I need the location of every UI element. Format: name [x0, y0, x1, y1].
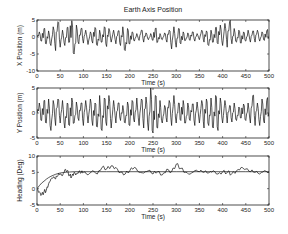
y-tick-label: -5	[30, 51, 36, 57]
y-tick-label: 5	[32, 17, 36, 23]
x-axis-label: Time (s)	[141, 213, 165, 221]
x-tick-label: 200	[125, 207, 136, 213]
x-tick-label: 100	[78, 140, 89, 146]
x-tick-label: 500	[264, 207, 275, 213]
x-tick-label: 50	[57, 73, 64, 79]
x-tick-label: 150	[102, 140, 113, 146]
x-tick-label: 100	[78, 73, 89, 79]
y-axis-label: Y Position (m)	[16, 93, 24, 134]
x-tick-label: 150	[102, 207, 113, 213]
y-tick-label: -10	[26, 68, 35, 74]
x-tick-label: 450	[241, 73, 252, 79]
y-tick-label: 5	[32, 85, 36, 91]
x-tick-label: 500	[264, 140, 275, 146]
x-position-subplot: 050100150200250300350400450500-10-505Tim…	[16, 17, 275, 87]
y-tick-label: 0	[32, 186, 36, 192]
y-axis-label: X Position (m)	[16, 25, 24, 66]
x-tick-label: 300	[171, 207, 182, 213]
x-tick-label: 100	[78, 207, 89, 213]
x-tick-label: 400	[218, 140, 229, 146]
y-position-subplot: 050100150200250300350400450500-505Time (…	[16, 85, 275, 154]
x-tick-label: 350	[194, 207, 205, 213]
figure-title: Earth Axis Position	[124, 6, 182, 13]
x-tick-label: 50	[57, 140, 64, 146]
y-tick-label: -5	[30, 202, 36, 208]
y-axis-label: Heading (Deg)	[16, 159, 24, 201]
x-axis-label: Time (s)	[141, 79, 165, 87]
x-tick-label: 400	[218, 73, 229, 79]
y-tick-label: -5	[30, 135, 36, 141]
x-tick-label: 300	[171, 73, 182, 79]
x-tick-label: 500	[264, 73, 275, 79]
x-tick-label: 450	[241, 140, 252, 146]
x-tick-label: 50	[57, 207, 64, 213]
x-tick-label: 0	[35, 207, 39, 213]
y-tick-label: 0	[32, 34, 36, 40]
x-tick-label: 400	[218, 207, 229, 213]
y-tick-label: 10	[28, 153, 35, 159]
x-tick-label: 300	[171, 140, 182, 146]
x-tick-label: 350	[194, 73, 205, 79]
x-tick-label: 200	[125, 73, 136, 79]
x-tick-label: 200	[125, 140, 136, 146]
heading-subplot: 050100150200250300350400450500-50510Time…	[16, 153, 275, 221]
x-tick-label: 350	[194, 140, 205, 146]
x-tick-label: 0	[35, 140, 39, 146]
x-tick-label: 0	[35, 73, 39, 79]
x-tick-label: 150	[102, 73, 113, 79]
x-axis-label: Time (s)	[141, 146, 165, 154]
y-tick-label: 0	[32, 110, 36, 116]
figure: Earth Axis Position 05010015020025030035…	[0, 0, 288, 234]
y-tick-label: 5	[32, 169, 36, 175]
x-tick-label: 450	[241, 207, 252, 213]
plot-frame	[37, 156, 269, 205]
